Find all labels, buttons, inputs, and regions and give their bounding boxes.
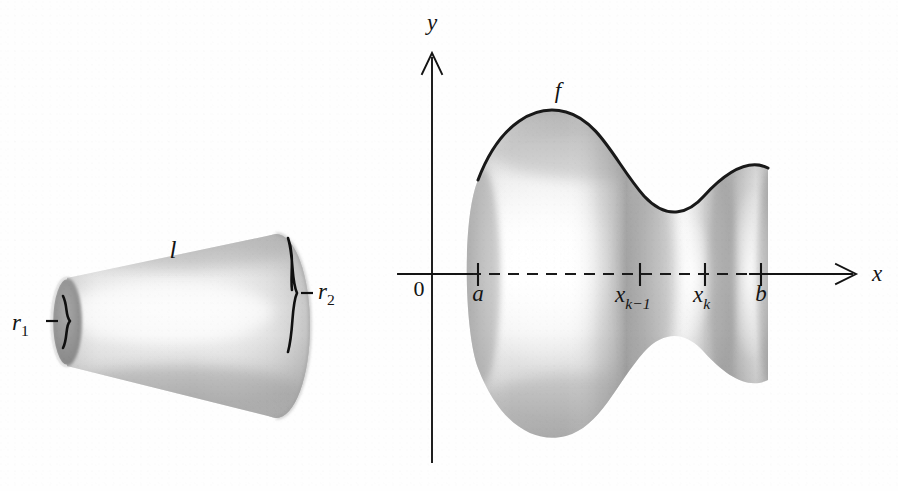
function-label-f: f bbox=[555, 78, 565, 103]
figure-root: l r1 r2 bbox=[0, 0, 898, 491]
tick-label-xk-1-subscript: k−1 bbox=[625, 295, 650, 312]
tick-label-xk-subscript: k bbox=[703, 295, 711, 312]
frustum-specular-highlight bbox=[64, 282, 272, 342]
frustum-lower-shade bbox=[60, 366, 300, 418]
y-axis-label: y bbox=[425, 10, 438, 35]
origin-label: 0 bbox=[414, 276, 425, 301]
x-axis-label: x bbox=[871, 261, 883, 286]
revolution-lower-shade bbox=[482, 374, 694, 434]
figure-canvas: l r1 r2 bbox=[0, 0, 898, 491]
surface-of-revolution-figure: x y 0 f a xk−1 xk b bbox=[398, 10, 883, 462]
revolution-upper-shade bbox=[490, 120, 710, 180]
tick-label-xk-base: x bbox=[692, 282, 704, 307]
tick-label-b: b bbox=[755, 281, 767, 306]
revolution-band-shade-k bbox=[624, 156, 676, 396]
small-radius-subscript: 1 bbox=[21, 322, 29, 339]
tick-label-a: a bbox=[472, 281, 484, 306]
conical-frustum-figure: l r1 r2 bbox=[12, 232, 335, 418]
revolution-band-shade-kb bbox=[708, 164, 736, 388]
small-radius-label: r1 bbox=[12, 310, 29, 339]
large-radius-label: r2 bbox=[318, 279, 335, 308]
tick-label-xk-1-base: x bbox=[614, 282, 626, 307]
revolution-left-rim-shade bbox=[464, 168, 500, 384]
large-radius-subscript: 2 bbox=[327, 291, 335, 308]
slant-height-label: l bbox=[170, 236, 177, 263]
